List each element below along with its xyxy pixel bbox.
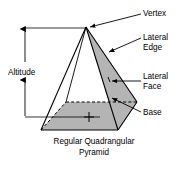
lateral-edge-back-left — [66, 27, 86, 102]
label-altitude: Altitude — [8, 68, 35, 78]
figure-caption-line1: Regular Quadrangular — [0, 136, 188, 147]
pyramid-diagram: Vertex Lateral Edge Lateral Face Base Al… — [0, 0, 188, 174]
figure-caption: Regular Quadrangular Pyramid — [0, 136, 188, 158]
label-lateral-edge-line1: Lateral — [143, 33, 168, 43]
figure-caption-line2: Pyramid — [0, 147, 188, 158]
label-lateral-face-line2: Face — [143, 82, 161, 92]
leader-line-vertex — [90, 14, 141, 27]
label-base: Base — [143, 108, 162, 118]
leader-line-lateral-edge — [109, 38, 141, 52]
label-vertex: Vertex — [143, 9, 166, 19]
label-lateral-edge-line2: Edge — [143, 43, 162, 53]
label-lateral-face-line1: Lateral — [143, 72, 168, 82]
